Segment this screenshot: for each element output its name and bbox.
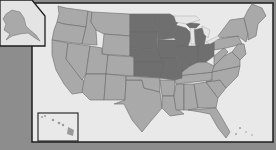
hawaii-inset xyxy=(38,113,78,141)
alaska-inset xyxy=(0,0,45,46)
state-colorado xyxy=(106,55,134,76)
lake-michigan xyxy=(190,28,195,44)
state-new-mexico xyxy=(104,74,126,100)
map-canvas xyxy=(0,0,276,150)
state-kansas xyxy=(134,62,164,78)
state-mississippi xyxy=(174,84,184,110)
state-north-dakota xyxy=(130,14,157,32)
state-south-dakota xyxy=(130,32,158,50)
us-region-map xyxy=(0,0,276,150)
state-wyoming xyxy=(102,34,130,56)
state-arkansas xyxy=(160,80,175,96)
